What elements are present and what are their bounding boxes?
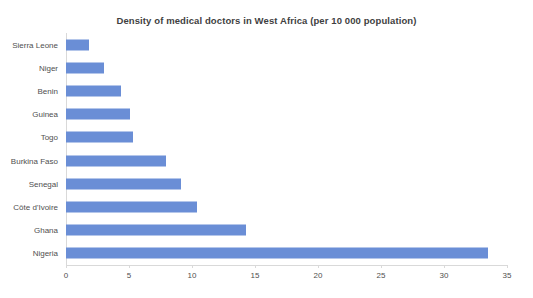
bar bbox=[66, 225, 246, 236]
category-label: Côte d'Ivoire bbox=[13, 202, 58, 211]
bar-row: Senegal bbox=[66, 172, 507, 195]
x-tick-mark bbox=[444, 265, 445, 268]
x-axis-ticks: 05101520253035 bbox=[0, 265, 533, 298]
category-label: Guinea bbox=[32, 110, 58, 119]
bar-row: Ghana bbox=[66, 219, 507, 242]
category-label: Burkina Faso bbox=[11, 156, 58, 165]
x-tick-label: 0 bbox=[64, 271, 68, 280]
bar bbox=[66, 155, 166, 166]
bar-chart: Density of medical doctors in West Afric… bbox=[0, 0, 533, 298]
x-tick-label: 5 bbox=[127, 271, 131, 280]
bar-row: Niger bbox=[66, 56, 507, 79]
bar bbox=[66, 248, 488, 259]
x-tick-mark bbox=[192, 265, 193, 268]
category-label: Niger bbox=[39, 63, 58, 72]
category-label: Togo bbox=[41, 133, 58, 142]
x-tick-label: 10 bbox=[188, 271, 197, 280]
x-tick-mark bbox=[255, 265, 256, 268]
x-tick-label: 15 bbox=[251, 271, 260, 280]
x-tick-mark bbox=[381, 265, 382, 268]
category-label: Senegal bbox=[29, 179, 58, 188]
bar bbox=[66, 201, 197, 212]
x-tick-label: 30 bbox=[440, 271, 449, 280]
bar-row: Sierra Leone bbox=[66, 33, 507, 56]
x-tick-mark bbox=[66, 265, 67, 268]
bar-row: Guinea bbox=[66, 103, 507, 126]
bar bbox=[66, 178, 181, 189]
bar-row: Côte d'Ivoire bbox=[66, 195, 507, 218]
x-tick-mark bbox=[507, 265, 508, 268]
x-tick-mark bbox=[318, 265, 319, 268]
bar bbox=[66, 132, 133, 143]
x-tick-label: 25 bbox=[377, 271, 386, 280]
x-tick-label: 35 bbox=[503, 271, 512, 280]
category-label: Ghana bbox=[34, 226, 58, 235]
bar-row: Burkina Faso bbox=[66, 149, 507, 172]
category-label: Benin bbox=[38, 86, 58, 95]
category-label: Nigeria bbox=[33, 249, 58, 258]
category-label: Sierra Leone bbox=[12, 40, 58, 49]
x-tick-label: 20 bbox=[314, 271, 323, 280]
plot-area: Sierra LeoneNigerBeninGuineaTogoBurkina … bbox=[66, 33, 507, 265]
bar bbox=[66, 39, 89, 50]
bar-series: Sierra LeoneNigerBeninGuineaTogoBurkina … bbox=[66, 33, 507, 265]
bar-row: Benin bbox=[66, 79, 507, 102]
x-tick-mark bbox=[129, 265, 130, 268]
bar-row: Nigeria bbox=[66, 242, 507, 265]
bar bbox=[66, 85, 121, 96]
chart-title: Density of medical doctors in West Afric… bbox=[0, 15, 533, 26]
bar-row: Togo bbox=[66, 126, 507, 149]
bar bbox=[66, 109, 130, 120]
bar bbox=[66, 62, 104, 73]
